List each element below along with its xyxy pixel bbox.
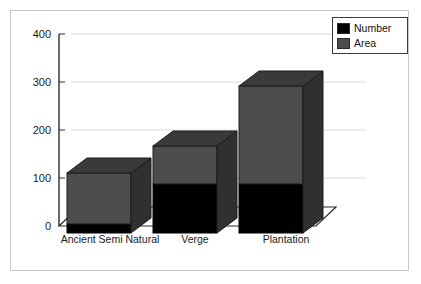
- y-axis: [59, 34, 65, 226]
- legend-label-area: Area: [354, 37, 376, 49]
- bar-side-face: [217, 131, 237, 233]
- y-tick-label-200: 200: [17, 124, 51, 136]
- y-tick-label-300: 300: [17, 76, 51, 88]
- x-tick-label-plantation: Plantation: [239, 233, 333, 245]
- bar-segment-area: [153, 146, 217, 184]
- y-tick-label-0: 0: [17, 220, 51, 232]
- y-tick-label-400: 400: [17, 28, 51, 40]
- legend-item-number: Number: [337, 21, 403, 35]
- legend-label-number: Number: [354, 22, 391, 34]
- x-tick-label-verge: Verge: [155, 233, 235, 245]
- legend-swatch-area: [337, 38, 350, 49]
- bar-group-ancient-semi-natural: [67, 158, 151, 233]
- bar-group-plantation: [239, 71, 323, 233]
- legend-item-area: Area: [337, 36, 403, 50]
- bar-segment-area: [67, 173, 131, 224]
- bar-segment-number: [239, 184, 303, 233]
- bar-segment-area: [239, 86, 303, 184]
- chart-legend: Number Area: [332, 17, 408, 54]
- y-tick-label-100: 100: [17, 172, 51, 184]
- bar-side-face: [303, 71, 323, 233]
- bar-segment-number: [67, 224, 131, 233]
- legend-swatch-number: [337, 23, 350, 34]
- bar-group-verge: [153, 131, 237, 233]
- bar-segment-number: [153, 184, 217, 233]
- chart-figure: 400 300 200 100 0 Ancient Semi Natural V…: [0, 0, 421, 284]
